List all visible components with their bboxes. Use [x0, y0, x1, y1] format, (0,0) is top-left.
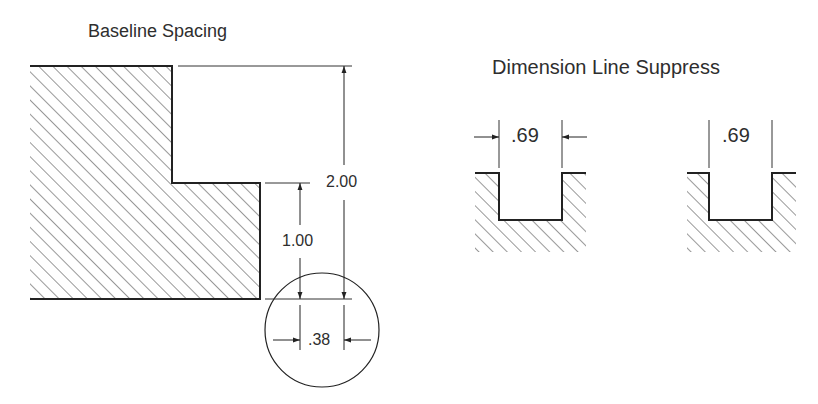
dimension-line-suppress-title: Dimension Line Suppress — [492, 56, 720, 79]
dimension-label-0-38: .38 — [308, 331, 330, 349]
dimension-label-2-00: 2.00 — [326, 173, 357, 191]
detail-circle — [265, 273, 379, 387]
dimension-label-1-00: 1.00 — [282, 232, 313, 250]
groove-2-label: .69 — [722, 124, 750, 147]
groove-1-label: .69 — [511, 124, 539, 147]
baseline-spacing-title: Baseline Spacing — [88, 21, 227, 42]
stepped-part — [30, 66, 260, 299]
